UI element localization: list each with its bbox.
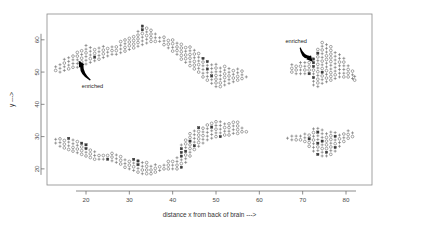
data-point-filled: [308, 73, 310, 75]
data-point-filled: [198, 127, 200, 129]
data-point-filled: [85, 144, 87, 146]
data-point-filled: [334, 135, 336, 137]
data-point-filled: [189, 140, 191, 142]
data-point-filled: [312, 62, 314, 64]
data-point-filled: [68, 137, 70, 139]
data-point-filled: [94, 56, 96, 58]
data-point-filled: [211, 75, 213, 77]
data-point-filled: [317, 153, 319, 155]
data-point-filled: [321, 140, 323, 142]
data-point-filled: [312, 58, 314, 60]
data-point-filled: [317, 52, 319, 54]
x-tick-label: 60: [256, 196, 263, 203]
annotation-label-enriched-1: enriched: [285, 38, 306, 44]
y-tick-label: 20: [33, 165, 40, 172]
data-point-filled: [141, 29, 143, 31]
plot-canvas: 20304050607080 2030405060 distance x fro…: [0, 0, 443, 228]
annotation-label-enriched-0: enriched: [82, 83, 103, 89]
data-point-filled: [81, 142, 83, 144]
data-point-filled: [317, 131, 319, 133]
y-tick-label: 40: [33, 100, 40, 107]
x-tick-label: 30: [126, 196, 133, 203]
data-point-filled: [325, 151, 327, 153]
data-point-filled: [180, 155, 182, 157]
data-point-filled: [202, 57, 204, 59]
y-tick-label: 60: [33, 36, 40, 43]
data-point-filled: [180, 166, 182, 168]
data-point-filled: [185, 150, 187, 152]
data-point-filled: [219, 135, 221, 137]
data-point-filled: [211, 126, 213, 128]
data-point-filled: [334, 146, 336, 148]
data-point-filled: [312, 76, 314, 78]
data-point-filled: [317, 142, 319, 144]
data-point-filled: [137, 160, 139, 162]
data-point-filled: [193, 145, 195, 147]
data-point-filled: [308, 138, 310, 140]
data-point-filled: [141, 25, 143, 27]
data-point-filled: [321, 71, 323, 73]
x-axis-title: distance x from back of brain --->: [163, 211, 257, 218]
y-tick-label: 50: [33, 68, 40, 75]
data-point-filled: [312, 65, 314, 67]
data-point-filled: [137, 164, 139, 166]
plot-background: [0, 0, 443, 228]
x-tick-label: 20: [83, 196, 90, 203]
data-point-filled: [206, 60, 208, 62]
x-tick-label: 70: [299, 196, 306, 203]
data-point-filled: [133, 158, 135, 160]
data-point-filled: [206, 68, 208, 70]
y-axis-title: y --->: [8, 92, 16, 107]
x-tick-label: 40: [169, 196, 176, 203]
data-point-filled: [180, 151, 182, 153]
scatter-plot-figure: 20304050607080 2030405060 distance x fro…: [0, 0, 443, 228]
x-tick-label: 80: [343, 196, 350, 203]
data-point-filled: [85, 147, 87, 149]
y-tick-label: 30: [33, 133, 40, 140]
data-point-filled: [107, 158, 109, 160]
x-tick-label: 50: [213, 196, 220, 203]
data-point-filled: [180, 148, 182, 150]
